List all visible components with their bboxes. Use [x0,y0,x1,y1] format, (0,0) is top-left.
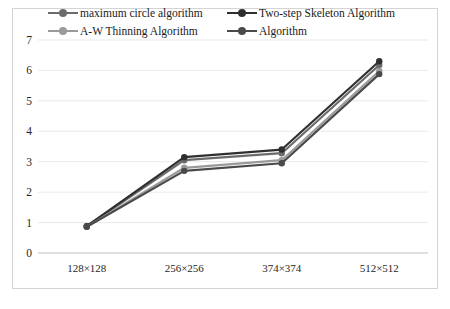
x-axis-tick-label: 128×128 [42,262,132,274]
legend-marker-icon [227,26,257,36]
legend-marker-icon [227,8,257,18]
y-axis-tick-label: 3 [8,156,32,168]
y-axis-tick-label: 4 [8,125,32,137]
y-axis-tick-label: 0 [8,247,32,259]
y-axis-tick-label: 7 [8,34,32,46]
y-axis-tick-label: 5 [8,95,32,107]
legend-dot-icon [59,9,67,17]
legend-item-a-w-thinning-algorithm[interactable]: A-W Thinning Algorithm [48,22,223,40]
chart-legend: maximum circle algorithm Two-step Skelet… [48,4,408,40]
x-axis-tick-label: 512×512 [334,262,424,274]
legend-marker-icon [48,26,78,36]
legend-label: Algorithm [259,22,307,40]
y-axis-tick-label: 2 [8,186,32,198]
legend-label: A-W Thinning Algorithm [80,22,198,40]
legend-marker-icon [48,8,78,18]
y-axis-tick-label: 6 [8,64,32,76]
legend-item-algorithm[interactable]: Algorithm [227,22,402,40]
x-axis-tick-label: 374×374 [237,262,327,274]
legend-label: maximum circle algorithm [80,4,203,22]
legend-item-maximum-circle-algorithm[interactable]: maximum circle algorithm [48,4,223,22]
y-axis-tick-label: 1 [8,217,32,229]
legend-label: Two-step Skeleton Algorithm [259,4,395,22]
chart-frame [12,8,438,289]
x-axis-tick-label: 256×256 [139,262,229,274]
legend-dot-icon [59,27,67,35]
legend-item-two-step-skeleton-algorithm[interactable]: Two-step Skeleton Algorithm [227,4,402,22]
legend-dot-icon [238,27,246,35]
legend-dot-icon [238,9,246,17]
